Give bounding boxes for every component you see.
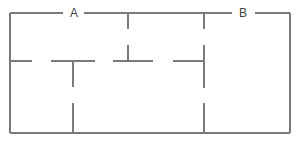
vertical-partitions <box>73 13 204 133</box>
opening-a-label: A <box>70 6 78 20</box>
opening-b-label: B <box>239 6 247 20</box>
outer-walls <box>10 13 290 133</box>
floor-plan-diagram: A B <box>0 0 302 146</box>
